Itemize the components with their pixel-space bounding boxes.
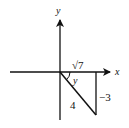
angle-label: y [72,75,78,86]
hypotenuse-label: 4 [70,99,76,111]
hypotenuse [60,72,96,115]
adjacent-side-label: √7 [72,59,84,71]
angle-arc [67,72,71,80]
y-axis-label: y [55,5,61,16]
triangle-diagram: y x √7 y 4 −3 [0,0,129,128]
x-axis-label: x [114,66,120,77]
opposite-side-label: −3 [99,91,111,103]
